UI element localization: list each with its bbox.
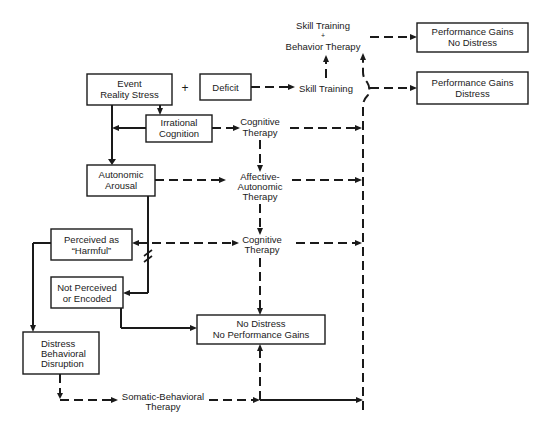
node-performance-gains-distress: Performance Gains Distress [417, 72, 528, 104]
therapy-label: Therapy [146, 401, 181, 412]
node-label: Autonomic [99, 169, 144, 180]
therapy-label: Behavior Therapy [286, 41, 361, 52]
therapy-label: Skill Training [296, 20, 350, 31]
node-label: or Encoded [63, 293, 112, 304]
therapy-cognitive-1: Cognitive Therapy [240, 116, 280, 138]
node-label: Perceived as [64, 234, 119, 245]
node-label: Deficit [212, 82, 239, 93]
node-label: No Performance Gains [213, 329, 310, 340]
therapy-flow-diagram: Event Reality Stress + Deficit Irrationa… [0, 0, 547, 430]
node-autonomic-arousal: Autonomic Arousal [87, 165, 155, 196]
node-irrational-cognition: Irrational Cognition [146, 115, 212, 142]
therapy-cognitive-2: Cognitive Therapy [242, 234, 282, 255]
therapy-label: Therapy [245, 244, 280, 255]
therapy-label: Therapy [243, 191, 278, 202]
node-deficit: Deficit [200, 74, 251, 100]
node-perceived-harmful: Perceived as “Harmful” [51, 229, 132, 260]
node-label: Not Perceived [57, 282, 117, 293]
therapy-skill-behavior: Skill Training + Behavior Therapy [286, 20, 361, 52]
node-label: Cognition [159, 128, 199, 139]
node-no-distress-no-gains: No Distress No Performance Gains [197, 315, 325, 344]
node-label: No Distress [448, 37, 497, 48]
node-label: Disruption [41, 358, 84, 369]
therapy-label: + [321, 32, 325, 39]
node-label: “Harmful” [72, 245, 112, 256]
node-label: Distress [455, 88, 490, 99]
node-label: Reality Stress [100, 89, 159, 100]
node-label: Performance Gains [432, 77, 514, 88]
node-label: Irrational [161, 117, 198, 128]
node-label: No Distress [236, 318, 285, 329]
node-label: Performance Gains [432, 26, 514, 37]
therapy-affective-autonomic: Affective- Autonomic Therapy [238, 171, 283, 202]
plus-sign: + [181, 81, 188, 95]
node-performance-gains-no-distress: Performance Gains No Distress [417, 23, 528, 52]
therapy-skill-training: Skill Training [299, 83, 353, 94]
therapy-label: Therapy [243, 127, 278, 138]
therapy-somatic-behavioral: Somatic-Behavioral Therapy [122, 391, 204, 412]
node-label: Event [117, 78, 142, 89]
node-event-reality-stress: Event Reality Stress [87, 74, 172, 105]
node-distress-behavioral-disruption: Distress Behavioral Disruption [23, 332, 99, 374]
therapy-label: Cognitive [240, 116, 280, 127]
node-label: Arousal [105, 180, 137, 191]
node-not-perceived-encoded: Not Perceived or Encoded [51, 277, 123, 308]
